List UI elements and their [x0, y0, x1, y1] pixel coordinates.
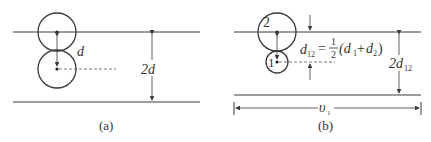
svg-text:2d: 2d: [389, 56, 404, 71]
molecule-2-label: 2: [263, 15, 270, 30]
velocity-label: υ 1: [319, 100, 331, 117]
svg-text:=: =: [318, 41, 326, 56]
svg-text:(d: (d: [339, 41, 352, 57]
svg-text:1: 1: [331, 36, 336, 47]
height-label-2d: 2d: [141, 62, 156, 77]
center-dot-2: [275, 30, 278, 33]
svg-text:2: 2: [331, 49, 336, 60]
svg-text:): ): [378, 41, 383, 57]
panel-b: 2 1 d 12 = 1 2 (d 1 + d 2 ) 2d 12: [234, 13, 421, 133]
panel-a: d 2d (a): [13, 13, 200, 133]
caption-a: (a): [99, 118, 113, 133]
svg-text:12: 12: [404, 64, 412, 73]
spacing-label-d: d: [77, 44, 85, 59]
center-dot-1: [275, 60, 278, 63]
center-dot-top: [55, 30, 58, 33]
svg-text:1: 1: [327, 109, 331, 117]
svg-text:2: 2: [373, 49, 377, 58]
molecule-1-label: 1: [268, 55, 275, 70]
collision-diameter-formula: d 12 = 1 2 (d 1 + d 2 ): [300, 36, 383, 60]
center-dot-bottom: [55, 67, 58, 70]
svg-text:12: 12: [307, 50, 315, 59]
svg-text:υ: υ: [319, 100, 325, 115]
svg-text:+: +: [357, 41, 365, 56]
caption-b: (b): [318, 118, 333, 133]
collision-diagram: d 2d (a) 2 1 d 12 = 1 2 (d 1 + d 2: [0, 0, 431, 142]
